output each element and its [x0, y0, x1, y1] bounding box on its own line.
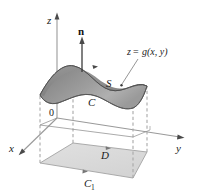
x-axis-label: x: [8, 142, 14, 154]
surface-equation-leader: [120, 59, 138, 86]
leader-line-endpoint-dot: [120, 84, 122, 86]
surface-equation-z: z: [126, 46, 131, 57]
surface-equation-function: g(x, y): [142, 46, 168, 58]
z-axis-label: z: [46, 14, 52, 26]
guide-line-horizontal: [40, 125, 133, 137]
z-axis-arrowhead: [55, 13, 60, 20]
y-axis-label: y: [175, 142, 181, 154]
x-axis: [19, 118, 57, 155]
figure-container: z y x 0 n S C D z = g(x, y) C 1: [0, 0, 200, 195]
y-axis-arrowhead: [177, 135, 185, 140]
normal-vector-arrowhead: [79, 37, 84, 45]
surface-label: S: [106, 77, 112, 89]
stokes-theorem-diagram: z y x 0 n S C D z = g(x, y) C 1: [0, 0, 200, 195]
region-d-label: D: [100, 149, 109, 161]
region-d-shape: [40, 143, 147, 178]
normal-vector-n: [79, 37, 84, 73]
surface-equation-label: z = g(x, y): [126, 46, 168, 58]
y-axis: [57, 118, 185, 139]
leader-line-to-surface: [122, 59, 138, 84]
curve-c1-subscript: 1: [91, 183, 95, 192]
region-d: [40, 143, 147, 178]
surface-equation-equals: =: [133, 46, 139, 57]
curve-c-orientation-arrow: [92, 65, 98, 69]
curve-c1-label: C 1: [84, 177, 95, 192]
origin-label: 0: [49, 107, 54, 118]
projection-guides: [40, 118, 150, 137]
curve-c-label: C: [88, 96, 96, 108]
guide-line-origin-left: [40, 118, 57, 125]
normal-vector-label: n: [78, 25, 84, 37]
